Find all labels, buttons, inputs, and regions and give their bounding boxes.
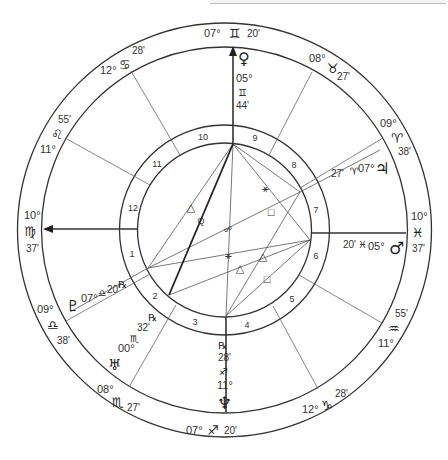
svg-text:09°: 09° [37,303,54,315]
svg-text:05°: 05° [368,240,385,252]
svg-text:27': 27' [331,168,344,179]
neptune-icon: ♆ [217,393,232,413]
svg-text:1: 1 [129,249,134,259]
scorpio-icon: ♏ [112,395,124,410]
svg-text:10: 10 [198,132,208,142]
svg-text:8: 8 [291,160,296,170]
aquarius-icon: ♒ [388,321,400,336]
mars-icon: ♂ [389,238,404,258]
svg-text:38': 38' [398,146,411,157]
asc-arrowhead-icon [43,225,53,233]
svg-text:℞: ℞ [218,340,227,351]
svg-text:10°: 10° [411,210,428,222]
svg-text:27': 27' [337,71,350,82]
svg-text:11: 11 [152,159,161,169]
trine-icon: △ [187,201,196,213]
svg-text:10°: 10° [24,209,41,221]
sextile-icon: ⚹ [225,249,232,261]
svg-text:℞: ℞ [118,279,127,290]
svg-text:38': 38' [57,335,70,346]
svg-text:07°: 07° [358,162,375,174]
svg-text:37': 37' [26,243,39,254]
svg-text:♎: ♎ [98,288,106,298]
cusp-mc-deg: 07° [204,27,221,39]
gemini-icon: ♊ [229,26,241,41]
svg-text:32': 32' [137,322,150,333]
virgo-icon: ♍ [24,224,36,239]
pisces-icon: ♓ [412,225,424,240]
natal-chart-wheel: ⚹ □ △ Q ☍ ⚹ △ △ □ 1 2 3 4 5 6 7 8 9 10 1… [0,0,448,460]
cusp-ic-min: 20' [224,425,237,436]
svg-text:♓: ♓ [358,239,367,250]
svg-text:9: 9 [252,133,257,143]
venus-icon: ♀ [238,49,250,68]
svg-text:♐: ♐ [219,366,228,377]
cusp-mc-min: 20' [247,28,260,39]
svg-text:44': 44' [236,100,249,111]
svg-text:07°: 07° [81,292,98,304]
svg-text:08°: 08° [309,52,326,64]
jupiter-icon: ♃ [375,159,389,178]
planets: ♀ 05° ♊ 44' 27' ♈ 07° ♃ 20' ♓ 05° ♂ ℞ 28… [66,49,404,413]
svg-text:12: 12 [128,203,138,213]
svg-text:11°: 11° [40,143,56,155]
quintile-icon: Q [197,216,204,226]
opposition-icon: ☍ [224,225,232,234]
svg-text:08°: 08° [97,383,114,395]
trine-icon: △ [236,262,245,274]
svg-text:6: 6 [313,251,318,261]
svg-text:12°: 12° [100,64,117,76]
libra-icon: ♎ [47,318,59,333]
svg-text:4: 4 [244,320,249,330]
svg-text:28': 28' [132,45,145,56]
svg-text:09°: 09° [380,117,397,129]
square-icon: □ [268,206,275,218]
svg-text:12°: 12° [302,403,319,415]
svg-text:55': 55' [395,308,408,319]
svg-text:7: 7 [313,205,318,215]
sagittarius-icon: ♐ [207,423,219,438]
svg-text:11°: 11° [217,379,233,391]
aries-icon: ♈ [391,131,403,146]
square-icon: □ [264,273,271,285]
svg-text:37': 37' [412,243,425,254]
leo-icon: ♌ [51,127,63,142]
trine-icon: △ [259,250,268,262]
svg-text:11°: 11° [378,337,394,349]
cusp-ic-deg: 07° [186,424,203,436]
svg-text:27': 27' [127,402,140,413]
svg-text:5: 5 [289,294,294,304]
svg-text:28': 28' [218,352,231,363]
uranus-icon: ♅ [108,356,121,374]
svg-text:28': 28' [335,388,348,399]
svg-text:05°: 05° [236,72,253,84]
sextile-icon: ⚹ [262,182,269,194]
capricorn-icon: ♑ [321,398,333,413]
svg-text:♊: ♊ [238,87,247,98]
svg-text:20': 20' [343,239,356,250]
svg-text:2: 2 [152,291,157,301]
pluto-icon: ♇ [66,297,79,315]
cancer-icon: ♋ [119,57,131,72]
svg-text:00°: 00° [118,342,135,354]
svg-text:3: 3 [192,317,197,327]
svg-text:55': 55' [58,114,71,125]
